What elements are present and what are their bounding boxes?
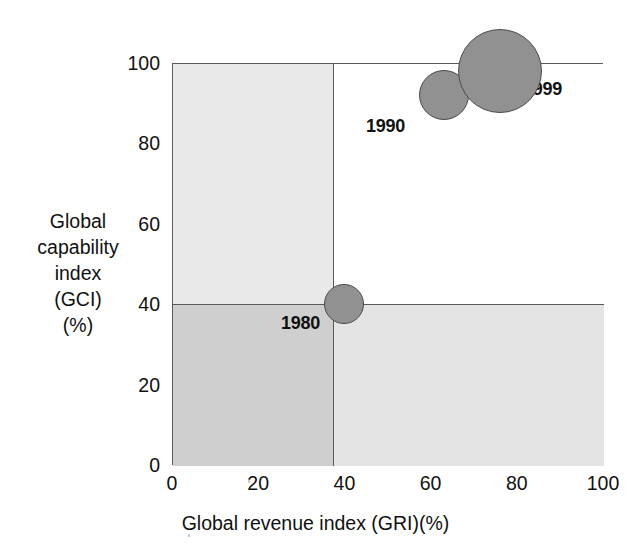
y-axis-title: Globalcapabilityindex(GCI)(%)	[8, 208, 148, 338]
x-axis-title: Global revenue index (GRI)(%)	[0, 512, 631, 535]
x-tick-20: 20	[247, 472, 269, 495]
point-label-1980: 1980	[281, 313, 320, 334]
scan-artifact	[188, 534, 190, 537]
bubble-quadrant-chart: 198019901999 020406080100 020406080100 G…	[0, 0, 631, 557]
y-tick-20: 20	[138, 373, 160, 396]
y-axis-title-line-1: Global	[8, 208, 148, 234]
y-tick-100: 100	[127, 52, 160, 75]
bubble-1999	[458, 29, 542, 113]
y-tick-80: 80	[138, 132, 160, 155]
x-tick-40: 40	[334, 472, 356, 495]
quadrant-divider-horizontal	[173, 304, 604, 305]
y-axis-title-line-3: index	[8, 260, 148, 286]
y-tick-0: 0	[149, 454, 160, 477]
quadrant-lower-right	[334, 305, 604, 466]
y-axis-title-line-5: (%)	[8, 312, 148, 338]
x-tick-60: 60	[420, 472, 442, 495]
x-tick-100: 100	[587, 472, 620, 495]
scan-artifact	[248, 480, 250, 483]
y-axis-title-line-2: capability	[8, 234, 148, 260]
point-label-1990: 1990	[366, 116, 405, 137]
x-tick-0: 0	[167, 472, 178, 495]
quadrant-upper-left	[173, 64, 334, 305]
y-axis-title-line-4: (GCI)	[8, 286, 148, 312]
quadrant-divider-vertical	[333, 64, 334, 466]
x-tick-80: 80	[506, 472, 528, 495]
